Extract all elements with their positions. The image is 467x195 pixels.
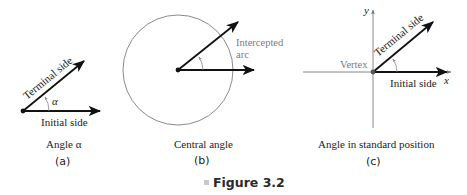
vertex-dot [176, 68, 181, 73]
panel-a: α Terminal side Initial side Angle α (a) [21, 54, 100, 168]
panel-b-title: Central angle [174, 138, 233, 150]
terminal-side-arrow [178, 22, 238, 70]
vertex-dot [21, 109, 26, 114]
panel-b-sublabel: (b) [194, 154, 210, 167]
panel-c: y x Vertex Terminal side Initial side An… [303, 4, 451, 168]
angle-arc-icon [393, 59, 397, 72]
initial-side-label: Initial side [390, 77, 437, 89]
y-axis-label: y [363, 4, 369, 16]
panel-a-sublabel: (a) [55, 155, 70, 168]
panel-c-title: Angle in standard position [318, 138, 435, 150]
angle-alpha-label: α [52, 95, 58, 107]
x-axis-label: x [443, 74, 449, 86]
intercepted-arc-label-2: arc [236, 49, 249, 60]
vertex-label: Vertex [340, 59, 368, 70]
intercepted-arc-label-1: Intercepted [236, 37, 284, 48]
figure-3-2: α Terminal side Initial side Angle α (a)… [0, 0, 467, 195]
initial-side-label: Initial side [41, 116, 88, 128]
panel-c-sublabel: (c) [366, 155, 381, 168]
vertex-dot [371, 70, 376, 75]
panel-b: Intercepted arc Central angle (b) [123, 15, 284, 167]
caption-bullet-icon [204, 180, 209, 185]
angle-arc-icon [199, 57, 203, 70]
panel-a-title: Angle α [46, 138, 82, 150]
figure-caption: Figure 3.2 [204, 175, 285, 190]
caption-text: Figure 3.2 [213, 175, 285, 190]
angle-arc-icon [45, 97, 49, 111]
terminal-side-label: Terminal side [21, 54, 75, 102]
